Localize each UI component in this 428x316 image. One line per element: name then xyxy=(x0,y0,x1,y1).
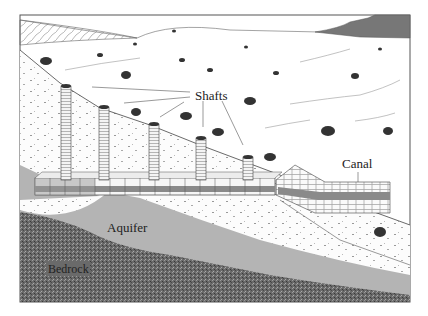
shrub-icon xyxy=(133,43,137,46)
shrub-icon xyxy=(97,53,103,57)
shaft-3 xyxy=(149,122,159,180)
shrub-icon xyxy=(383,127,393,135)
shrub-icon xyxy=(212,128,224,136)
shaft-4 xyxy=(196,136,206,180)
shrub-icon xyxy=(378,48,382,51)
shafts-label: Shafts xyxy=(195,88,228,103)
shaft-1 xyxy=(61,84,71,180)
shrub-icon xyxy=(351,73,359,79)
shrub-icon xyxy=(244,46,248,49)
shrub-icon xyxy=(273,71,279,75)
shaft-2 xyxy=(99,105,109,180)
shrub-icon xyxy=(40,57,52,65)
shrub-icon xyxy=(244,97,256,105)
shrub-icon xyxy=(179,58,185,62)
qanat-diagram: Shafts Canal Aquifer Bedrock xyxy=(0,0,428,316)
shaft-5 xyxy=(243,155,253,180)
shrub-icon xyxy=(131,108,141,116)
shrub-icon xyxy=(321,126,335,136)
shrub-icon xyxy=(207,68,213,72)
shrub-icon xyxy=(121,71,131,79)
aquifer-label: Aquifer xyxy=(107,220,148,235)
shrub-icon xyxy=(172,30,176,33)
canal-label: Canal xyxy=(342,156,373,171)
shrub-icon xyxy=(264,153,276,161)
shrub-icon xyxy=(374,227,386,237)
shrub-icon xyxy=(180,112,192,120)
bedrock-label: Bedrock xyxy=(48,262,89,276)
